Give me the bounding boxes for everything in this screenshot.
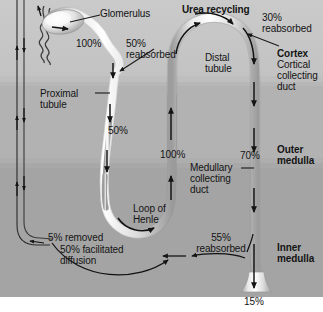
label-remaining-70: 70% [240, 150, 260, 161]
label-loop-of-henle: Loop of Henle [133, 203, 166, 225]
zone-label-cortex: Cortex [277, 48, 308, 59]
label-proximal-reabsorbed-50: 50% reabsorbed [126, 38, 176, 60]
label-medullary-collecting-duct: Medullary collecting duct [190, 162, 232, 195]
nephron-urea-recycling-figure: Urea recycling Glomerulus 100% 50% reabs… [0, 0, 323, 312]
label-glomerulus: Glomerulus [100, 8, 150, 19]
label-delivered-100: 100% [160, 149, 185, 160]
label-facilitated-diffusion-50: 50% facilitated diffusion [60, 244, 124, 266]
zone-label-outer-medulla: Outer medulla [277, 144, 314, 166]
label-filtered-100: 100% [76, 38, 101, 49]
label-excreted-15: 15% [244, 296, 264, 307]
bottom-white-strip [0, 297, 323, 312]
label-distal-tubule: Distal tubule [205, 52, 232, 74]
label-proximal-tubule: Proximal tubule [40, 88, 78, 110]
label-removed-5: 5% removed [48, 232, 103, 243]
label-remaining-50: 50% [108, 125, 128, 136]
label-medullary-reabsorbed-55: 55% reabsorbed [186, 232, 256, 254]
figure-title: Urea recycling [182, 4, 250, 15]
label-cortical-collecting-duct: Cortical collecting duct [277, 59, 318, 92]
label-cortical-reabsorbed-30: 30% reabsorbed [262, 12, 312, 34]
zone-label-inner-medulla: Inner medulla [277, 242, 314, 264]
